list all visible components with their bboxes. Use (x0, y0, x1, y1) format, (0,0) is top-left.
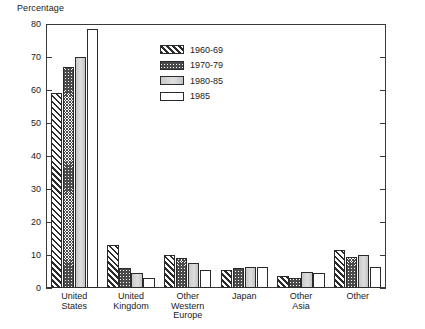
bar (200, 270, 212, 288)
x-axis-label-line: Kingdom (103, 302, 160, 312)
y-tick-label: 60 (19, 85, 41, 95)
bar (164, 255, 176, 288)
x-axis-category-label: OtherWesternEurope (159, 292, 216, 321)
y-tick-label: 20 (19, 217, 41, 227)
bar (107, 245, 119, 288)
legend-swatch (160, 92, 184, 101)
y-tick-label: 80 (19, 19, 41, 29)
bar (346, 257, 358, 288)
x-axis-category-label: UnitedStates (46, 292, 103, 311)
y-tick-label: 10 (19, 250, 41, 260)
legend-item: 1980-85 (160, 74, 223, 87)
legend-item: 1985 (160, 90, 223, 103)
y-tick-label: 70 (19, 52, 41, 62)
bar (358, 255, 370, 288)
legend-label: 1970-79 (190, 60, 223, 70)
bar-group (221, 24, 269, 288)
figure-caption (18, 322, 418, 329)
bar-group (334, 24, 382, 288)
legend-label: 1960-69 (190, 45, 223, 55)
x-axis-label-line: States (46, 302, 103, 312)
x-axis-label-line: Japan (216, 292, 273, 302)
bar-group (107, 24, 155, 288)
x-axis-label-line: Other (329, 292, 386, 302)
legend-swatch (160, 61, 184, 70)
bar (87, 29, 99, 288)
bar (313, 273, 325, 288)
bar (51, 93, 63, 288)
x-axis-category-label: OtherAsia (273, 292, 330, 311)
legend-swatch (160, 76, 184, 85)
bar (245, 267, 257, 288)
y-tick-label: 50 (19, 118, 41, 128)
bar-group (277, 24, 325, 288)
bar (63, 67, 75, 288)
y-tick-label: 0 (19, 283, 41, 293)
legend-label: 1985 (190, 91, 210, 101)
legend-swatch (160, 45, 184, 54)
bar (257, 267, 269, 288)
bar (277, 276, 289, 288)
bar-group (51, 24, 99, 288)
legend-item: 1970-79 (160, 59, 223, 72)
x-axis-category-label: Japan (216, 292, 273, 302)
x-axis-label-line: Asia (273, 302, 330, 312)
bar (221, 270, 233, 288)
bar (233, 268, 245, 288)
x-axis-category-label: UnitedKingdom (103, 292, 160, 311)
y-tick-mark-right (380, 288, 386, 289)
bar (188, 263, 200, 288)
bar (301, 272, 313, 289)
legend-label: 1980-85 (190, 76, 223, 86)
bar (289, 278, 301, 288)
x-axis-category-label: Other (329, 292, 386, 302)
legend-item: 1960-69 (160, 43, 223, 56)
x-axis-label-line: Europe (159, 311, 216, 321)
y-tick-label: 40 (19, 151, 41, 161)
bar (370, 267, 382, 288)
bar (75, 57, 87, 288)
y-tick-mark (46, 288, 52, 289)
legend: 1960-691970-791980-851985 (160, 43, 223, 105)
bar (131, 273, 143, 288)
bar (119, 268, 131, 288)
bar (334, 250, 346, 288)
y-tick-label: 30 (19, 184, 41, 194)
y-axis-title: Percentage (17, 3, 64, 13)
bar (143, 278, 155, 288)
bar-chart: Percentage 80706050403020100 UnitedState… (0, 0, 425, 329)
bar (176, 258, 188, 288)
